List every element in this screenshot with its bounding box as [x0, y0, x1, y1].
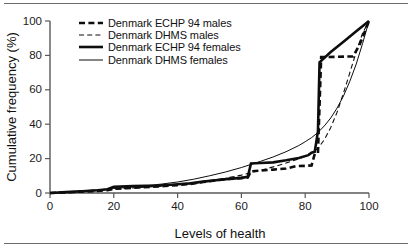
x-tick-label: 40 [171, 200, 184, 212]
legend-label-dhms-males: Denmark DHMS males [104, 29, 219, 41]
figure-container: 020406080100020406080100 Levels of healt… [0, 0, 412, 251]
legend-item-echp-94-females[interactable]: Denmark ECHP 94 females [78, 41, 248, 53]
y-tick-label: 80 [29, 49, 42, 61]
x-tick-label: 80 [299, 200, 312, 212]
x-tick-label: 60 [235, 200, 248, 212]
legend-swatch-thick-dashed-icon [78, 17, 104, 29]
legend-label-echp-94-males: Denmark ECHP 94 males [104, 17, 232, 29]
x-tick-label: 20 [107, 200, 120, 212]
x-axis-title: Levels of health [174, 226, 265, 241]
y-tick-label: 0 [36, 187, 42, 199]
legend-swatch-thin-dashed-icon [78, 29, 104, 41]
y-tick-label: 60 [29, 83, 42, 95]
x-tick-label: 0 [47, 200, 53, 212]
x-tick-label: 100 [359, 200, 378, 212]
legend-item-echp-94-males[interactable]: Denmark ECHP 94 males [78, 17, 248, 29]
legend-item-dhms-males[interactable]: Denmark DHMS males [78, 29, 248, 41]
legend-item-dhms-females[interactable]: Denmark DHMS females [78, 54, 248, 66]
y-tick-label: 20 [29, 152, 42, 164]
y-tick-label: 100 [23, 15, 42, 27]
y-axis-title: Cumulative frequency (%) [4, 32, 19, 182]
chart-legend: Denmark ECHP 94 males Denmark DHMS males… [78, 17, 248, 66]
y-tick-label: 40 [29, 118, 42, 130]
legend-swatch-thin-solid-icon [78, 54, 104, 66]
legend-label-dhms-females: Denmark DHMS females [104, 54, 228, 66]
legend-label-echp-94-females: Denmark ECHP 94 females [104, 41, 241, 53]
legend-swatch-thick-solid-icon [78, 41, 104, 53]
